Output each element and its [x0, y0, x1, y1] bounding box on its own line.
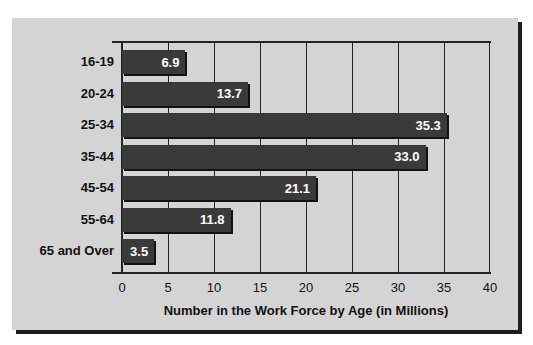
x-tick-label: 40: [483, 280, 497, 295]
bar: 6.9: [122, 50, 185, 74]
bar-value-label: 6.9: [161, 55, 179, 70]
bar: 21.1: [122, 176, 316, 200]
category-label: 55-64: [10, 208, 114, 232]
category-label: 20-24: [10, 82, 114, 106]
bar: 11.8: [122, 208, 231, 232]
bar-value-label: 21.1: [285, 181, 310, 196]
x-tick-label: 20: [299, 280, 313, 295]
x-tick-label: 25: [345, 280, 359, 295]
bar: 3.5: [122, 239, 154, 263]
x-tick-label: 15: [253, 280, 267, 295]
bar-value-label: 3.5: [130, 244, 148, 259]
x-tick-label: 35: [437, 280, 451, 295]
x-tick-label: 0: [118, 280, 125, 295]
x-axis-title: Number in the Work Force by Age (in Mill…: [122, 303, 490, 318]
x-tick-label: 10: [207, 280, 221, 295]
x-tick-label: 30: [391, 280, 405, 295]
bar-value-label: 13.7: [217, 86, 242, 101]
category-label: 45-54: [10, 176, 114, 200]
bar: 13.7: [122, 82, 248, 106]
bar: 35.3: [122, 113, 447, 137]
bar-value-label: 35.3: [415, 118, 440, 133]
gridline: [444, 42, 445, 273]
category-label: 25-34: [10, 113, 114, 137]
category-label: 35-44: [10, 145, 114, 169]
bar-value-label: 33.0: [394, 149, 419, 164]
bar-value-label: 11.8: [200, 212, 225, 227]
x-tick-label: 5: [164, 280, 171, 295]
category-label: 65 and Over: [10, 239, 114, 263]
category-label: 16-19: [10, 50, 114, 74]
bar: 33.0: [122, 145, 426, 169]
